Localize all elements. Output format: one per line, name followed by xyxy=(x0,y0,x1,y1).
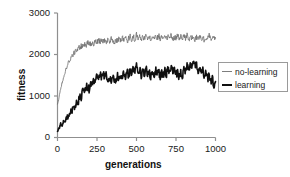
x-tick-label: 1000 xyxy=(196,143,236,154)
chart-legend: no-learning learning xyxy=(218,62,288,92)
legend-label-learning: learning xyxy=(235,80,265,90)
data-series-group xyxy=(58,32,216,131)
legend-item-no-learning: no-learning xyxy=(222,65,278,78)
x-axis-label: generations xyxy=(105,159,162,170)
y-tick-label: 2000 xyxy=(0,48,50,59)
x-tick-label: 0 xyxy=(38,143,78,154)
y-axis-label: fitness xyxy=(16,69,27,101)
x-tick-label: 250 xyxy=(77,143,117,154)
y-tick-label: 0 xyxy=(0,131,50,142)
legend-line-icon-no-learning xyxy=(222,71,232,72)
x-tick-label: 750 xyxy=(156,143,196,154)
chart-figure: 010002000300002505007501000 fitness gene… xyxy=(0,0,290,177)
series-line-learning xyxy=(58,61,216,131)
axis-lines xyxy=(54,13,216,141)
y-tick-label: 3000 xyxy=(0,7,50,18)
legend-item-learning: learning xyxy=(222,78,265,91)
legend-line-icon-learning xyxy=(222,84,232,86)
x-tick-label: 500 xyxy=(117,143,157,154)
legend-label-no-learning: no-learning xyxy=(235,67,278,77)
